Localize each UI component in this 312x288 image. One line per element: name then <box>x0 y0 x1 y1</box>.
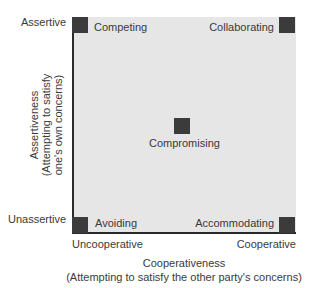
y-axis-line <box>72 17 74 233</box>
y-axis-title-sub: (Attempting to satisfy <box>40 74 52 177</box>
cooperative-label: Cooperative <box>237 238 296 250</box>
y-axis-title-main: Assertiveness <box>28 74 40 177</box>
accommodating-marker <box>279 217 295 233</box>
accommodating-label: Accommodating <box>195 217 274 229</box>
x-axis-title: Cooperativeness (Attempting to satisfy t… <box>66 256 302 284</box>
avoiding-marker <box>72 217 88 233</box>
x-axis-title-sub: (Attempting to satisfy the other party's… <box>66 270 302 284</box>
collaborating-marker <box>279 17 295 33</box>
uncooperative-label: Uncooperative <box>72 238 143 250</box>
assertive-label: Assertive <box>21 16 66 28</box>
avoiding-label: Avoiding <box>95 217 137 229</box>
unassertive-label: Unassertive <box>8 213 66 225</box>
x-axis-line <box>72 232 296 234</box>
compromising-marker <box>174 118 190 134</box>
y-axis-title: Assertiveness (Attempting to satisfy one… <box>28 74 64 177</box>
competing-label: Competing <box>94 21 147 33</box>
y-axis-title-sub2: one's own concerns) <box>52 74 64 177</box>
competing-marker <box>72 17 88 33</box>
collaborating-label: Collaborating <box>209 21 274 33</box>
x-axis-title-main: Cooperativeness <box>66 256 302 270</box>
compromising-label: Compromising <box>149 137 220 149</box>
